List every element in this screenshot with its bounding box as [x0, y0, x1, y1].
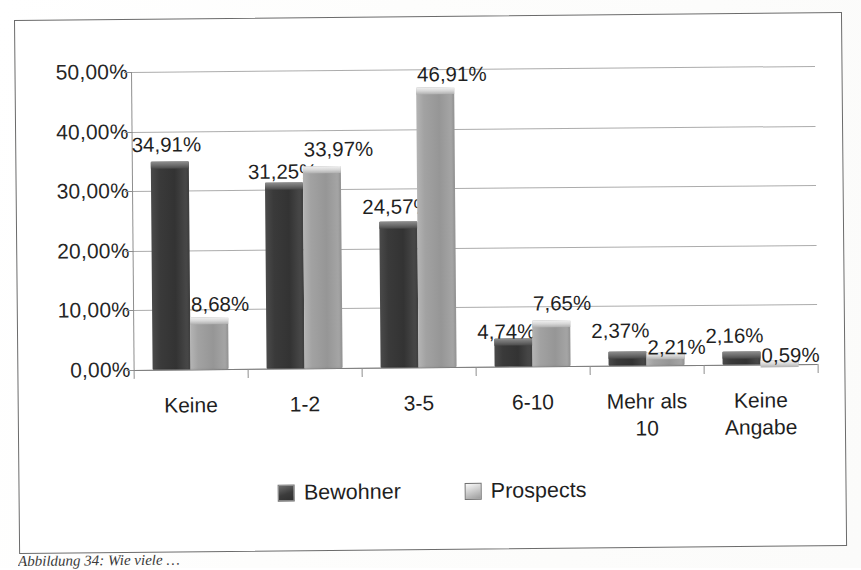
- bar-series-layer: 34,91%8,68%31,25%33,97%24,57%46,91%4,74%…: [0, 0, 858, 1]
- bar-bewohner: [722, 352, 760, 365]
- gridline: [132, 126, 816, 133]
- legend-swatch-icon: [278, 484, 295, 501]
- bar-bewohner: [379, 221, 418, 368]
- bar-top-highlight: [532, 320, 570, 327]
- bar-prospects: [303, 166, 343, 369]
- gridline: [132, 185, 816, 192]
- x-axis-category-label: Keine Angabe: [691, 386, 831, 441]
- legend-label: Prospects: [491, 478, 587, 504]
- bar-top-highlight: [379, 221, 417, 228]
- bar-prospects: [532, 320, 570, 366]
- y-axis-tick-label: 50,00%: [20, 60, 128, 85]
- x-axis-tick-mark: [704, 365, 705, 374]
- bar-bewohner: [608, 351, 646, 365]
- bar-value-label: 2,37%: [591, 318, 649, 343]
- bar-value-label: 2,16%: [705, 324, 763, 349]
- bar-value-label: 34,91%: [132, 132, 202, 157]
- grid-layer: [0, 0, 858, 1]
- bar-value-label: 2,21%: [647, 335, 705, 360]
- x-axis-tick-mark: [248, 369, 249, 378]
- legend-item-bewohner[interactable]: Bewohner: [278, 480, 401, 506]
- y-axis-line: [131, 72, 135, 371]
- x-axis-tick-mark: [134, 370, 135, 379]
- bar-bewohner: [265, 182, 305, 369]
- x-axis-tick-mark: [590, 366, 591, 375]
- bar-top-highlight: [608, 351, 646, 358]
- x-axis-category-labels: Keine1-23-56-10Mehr als 10Keine Angabe: [0, 0, 858, 1]
- bar-top-highlight: [722, 352, 760, 359]
- x-axis-tick-mark: [362, 368, 363, 377]
- y-axis-tick-label: 20,00%: [21, 239, 129, 264]
- bar-value-label: 7,65%: [533, 291, 591, 316]
- y-axis-tick-label: 10,00%: [22, 298, 130, 323]
- legend-swatch-icon: [465, 483, 482, 500]
- y-axis-tick-label: 40,00%: [20, 120, 128, 145]
- bar-value-label: 4,74%: [477, 319, 535, 344]
- bar-top-highlight: [190, 317, 228, 324]
- y-axis-tick-label: 30,00%: [21, 179, 129, 204]
- x-axis-ticks: [0, 0, 858, 1]
- y-axis-tick-label: 0,00%: [23, 358, 131, 383]
- chart-plot-area: 0,00%10,00%20,00%30,00%40,00%50,00% 34,9…: [0, 0, 861, 569]
- gridline: [133, 245, 817, 252]
- bar-value-label: 0,59%: [761, 343, 819, 368]
- bar-bewohner: [151, 161, 191, 369]
- bar-prospects: [416, 87, 456, 367]
- bar-prospects: [190, 317, 228, 369]
- bar-top-highlight: [151, 161, 189, 168]
- bar-value-label: 33,97%: [304, 136, 374, 161]
- legend-item-prospects[interactable]: Prospects: [465, 478, 587, 504]
- bar-value-label: 8,68%: [191, 292, 249, 317]
- legend-label: Bewohner: [304, 480, 401, 506]
- x-axis-tick-mark: [476, 367, 477, 376]
- bar-value-label: 46,91%: [417, 62, 487, 87]
- bar-top-highlight: [416, 87, 454, 94]
- bar-top-highlight: [303, 166, 341, 173]
